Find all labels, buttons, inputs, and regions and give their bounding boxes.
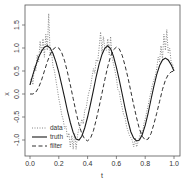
x-tick-label: 0.8 (140, 160, 150, 167)
legend: datatruthfilter (32, 124, 63, 149)
x-axis-label: t (101, 172, 103, 179)
y-tick-label: -0.5 (13, 111, 20, 123)
legend-label-data: data (50, 124, 63, 131)
x-tick-label: 0.2 (54, 160, 64, 167)
x-tick-label: 0.4 (83, 160, 93, 167)
y-tick-label: 1.0 (13, 43, 20, 53)
x-tick-label: 0.0 (25, 160, 35, 167)
line-chart: 0.00.20.40.60.81.0 -1.0-0.50.00.51.01.5 … (0, 0, 185, 181)
legend-label-filter: filter (50, 142, 63, 149)
y-axis-label: x (3, 92, 10, 96)
y-tick-label: -1.0 (13, 134, 20, 146)
plot-frame (25, 5, 180, 156)
y-tick-label: 1.5 (13, 20, 20, 30)
y-tick-label: 0.0 (13, 89, 20, 99)
x-axis: 0.00.20.40.60.81.0 (25, 156, 179, 167)
y-tick-label: 0.5 (13, 66, 20, 76)
x-tick-label: 1.0 (169, 160, 179, 167)
x-tick-label: 0.6 (112, 160, 122, 167)
y-axis: -1.0-0.50.00.51.01.5 (13, 20, 25, 146)
legend-label-truth: truth (50, 133, 63, 140)
